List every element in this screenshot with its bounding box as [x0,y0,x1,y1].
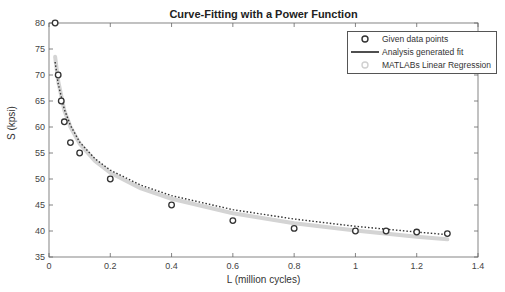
light-marker-icon [348,60,382,70]
x-tick-label: 0.8 [288,261,301,271]
legend-item-regression: MATLABs Linear Regression [348,59,496,72]
y-tick-label: 35 [35,252,45,262]
x-tick-label: 0.4 [165,261,178,271]
y-axis-label: S (kpsi) [6,106,17,140]
y-tick-label: 40 [35,226,45,236]
data-point [68,140,74,146]
y-tick-label: 50 [35,174,45,184]
legend: Given data points Analysis generated fit… [347,31,497,74]
y-tick-label: 55 [35,148,45,158]
y-tick-label: 45 [35,200,45,210]
x-tick-label: 0.2 [104,261,117,271]
data-point [52,20,58,26]
data-point [62,119,68,125]
data-point [107,176,113,182]
data-point [230,218,236,224]
y-tick-label: 80 [35,18,45,28]
data-point [58,98,64,104]
legend-item-fit: Analysis generated fit [348,46,496,59]
data-point [77,150,83,156]
y-tick-label: 60 [35,122,45,132]
data-point [414,229,420,235]
data-point [445,231,451,237]
legend-item-data-points: Given data points [348,33,496,46]
circle-marker-icon [348,34,382,44]
x-tick-label: 1 [353,261,358,271]
x-tick-label: 0.6 [227,261,240,271]
fit-curve [55,62,447,235]
y-tick-label: 65 [35,96,45,106]
line-icon [348,49,382,55]
chart-figure: Curve-Fitting with a Power Function 00.2… [0,0,505,292]
x-axis-label: L (million cycles) [49,274,478,285]
data-point [291,226,297,232]
y-tick-label: 75 [35,44,45,54]
y-tick-label: 70 [35,70,45,80]
x-tick-label: 1.4 [472,261,485,271]
x-tick-label: 1.2 [410,261,423,271]
data-point [169,202,175,208]
data-point [353,228,359,234]
data-point [55,72,61,78]
x-tick-label: 0 [46,261,51,271]
data-point [383,228,389,234]
